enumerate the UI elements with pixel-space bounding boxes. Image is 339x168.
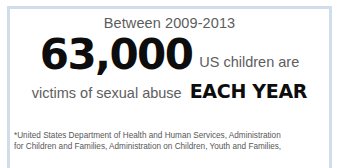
- count-row: 63,000 US children are: [13, 33, 326, 77]
- statistic-value: 63,000: [40, 33, 192, 77]
- footnote-line-1: *United States Department of Health and …: [14, 131, 326, 142]
- infographic-card: Between 2009-2013 63,000 US children are…: [0, 0, 339, 163]
- footnote-line-2: for Children and Families, Administratio…: [14, 142, 326, 153]
- descriptor-row: victims of sexual abuse EACH YEAR: [13, 81, 326, 103]
- source-footnote: *United States Department of Health and …: [14, 131, 326, 152]
- statistic-value-suffix: US children are: [199, 53, 299, 71]
- statistic-descriptor: victims of sexual abuse: [32, 83, 182, 103]
- statistic-frequency: EACH YEAR: [190, 81, 308, 101]
- statistic-block: Between 2009-2013 63,000 US children are…: [13, 14, 326, 103]
